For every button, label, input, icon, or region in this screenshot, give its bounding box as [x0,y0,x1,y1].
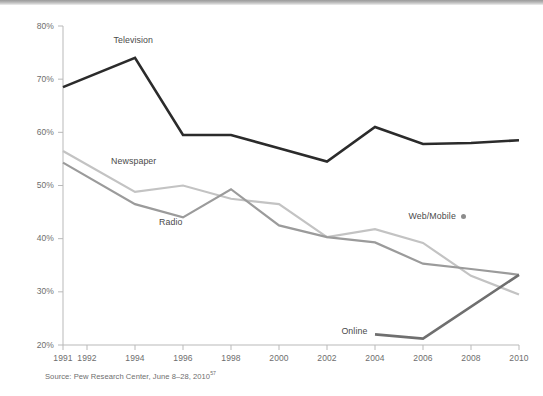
legend-item-web-mobile: Web/Mobile [409,211,466,221]
x-axis-tick-label: 1998 [221,353,240,363]
series-line-television [63,58,519,162]
x-axis-tick-label: 1994 [125,353,144,363]
line-chart [0,0,543,396]
y-axis-tick-label: 50% [20,180,54,190]
x-axis-tick-label: 2004 [365,353,384,363]
series-line-online [375,275,519,339]
x-axis-tick-label: 2008 [461,353,480,363]
y-axis-tick-label: 30% [20,286,54,296]
x-axis-tick-label: 1992 [77,353,96,363]
x-axis-tick-label: 1996 [173,353,192,363]
y-axis-tick-label: 70% [20,74,54,84]
series-line-newspaper [63,151,519,295]
series-label-radio: Radio [159,217,183,227]
x-axis-tick-label: 1991 [53,353,72,363]
x-axis-tick-label: 2006 [413,353,432,363]
x-axis-tick-label: 2010 [509,353,528,363]
series-label-newspaper: Newspaper [111,156,156,166]
chart-plot-svg [0,0,543,396]
source-note: Source: Pew Research Center, June 8–28, … [45,370,216,381]
legend-label-web-mobile: Web/Mobile [409,211,456,221]
series-label-television: Television [113,35,153,45]
y-axis-tick-label: 40% [20,233,54,243]
source-footnote-marker: 57 [210,370,216,376]
legend-dot-icon [461,214,466,219]
chart-page: 20%30%40%50%60%70%80% 199119921994199619… [0,0,543,396]
y-axis-tick-label: 60% [20,127,54,137]
y-axis-tick-label: 80% [20,21,54,31]
x-axis-tick-label: 2002 [317,353,336,363]
x-axis-tick-label: 2000 [269,353,288,363]
source-text: Source: Pew Research Center, June 8–28, … [45,372,210,381]
y-axis-tick-label: 20% [20,340,54,350]
series-label-online: Online [341,326,367,336]
